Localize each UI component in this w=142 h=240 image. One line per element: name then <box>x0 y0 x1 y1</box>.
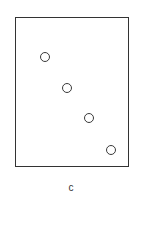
circle-2 <box>62 83 72 93</box>
circle-1 <box>40 52 50 62</box>
circle-4 <box>106 145 116 155</box>
diagram-label: c <box>0 182 142 194</box>
circle-3 <box>84 113 94 123</box>
